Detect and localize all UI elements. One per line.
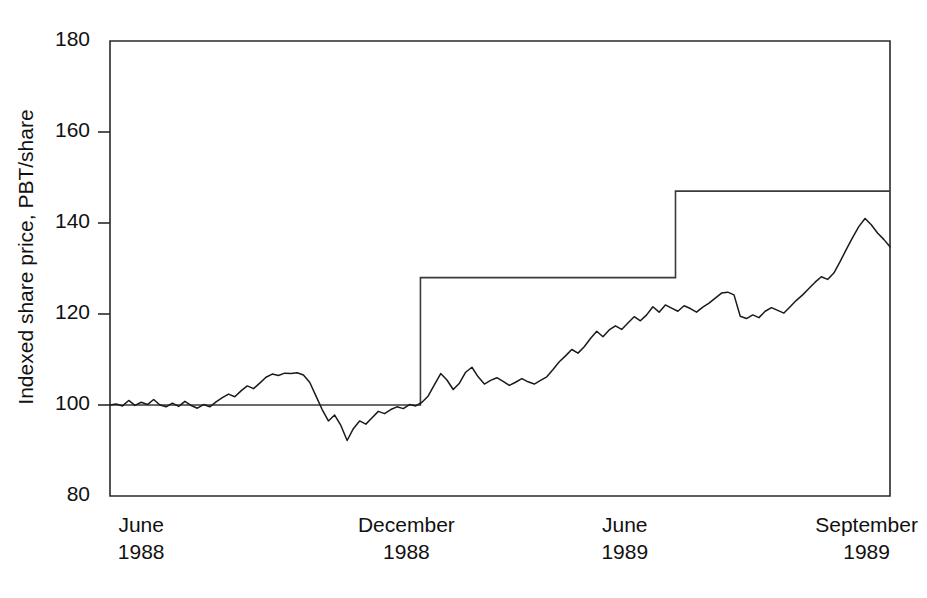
x-tick-year: 1988 xyxy=(31,539,251,566)
y-axis-title: Indexed share price, PBT/share xyxy=(14,22,48,492)
chart-canvas xyxy=(0,0,927,598)
x-tick-year: 1989 xyxy=(757,539,927,566)
x-tick-year: 1989 xyxy=(515,539,735,566)
plot-frame xyxy=(110,41,890,496)
step-series-line xyxy=(110,191,890,405)
x-tick-month: December xyxy=(296,512,516,539)
x-tick-label: June1989 xyxy=(515,512,735,566)
x-tick-label: September1989 xyxy=(757,512,927,566)
y-axis-ticks xyxy=(98,132,110,405)
x-tick-year: 1988 xyxy=(296,539,516,566)
chart-figure: 80100120140160180 June1988December1988Ju… xyxy=(0,0,927,598)
x-tick-month: September xyxy=(757,512,927,539)
x-tick-label: December1988 xyxy=(296,512,516,566)
x-tick-label: June1988 xyxy=(31,512,251,566)
price-series-line xyxy=(110,218,890,440)
x-tick-month: June xyxy=(515,512,735,539)
x-tick-month: June xyxy=(31,512,251,539)
